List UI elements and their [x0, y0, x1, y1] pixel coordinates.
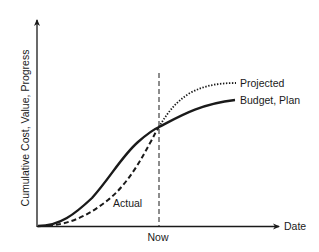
- now-label: Now: [147, 231, 168, 243]
- actual-curve: [40, 127, 159, 226]
- s-curve-chart: Projected Budget, Plan Actual Now Date C…: [0, 0, 319, 252]
- chart-svg: Projected Budget, Plan Actual Now Date C…: [0, 0, 319, 252]
- projected-label: Projected: [240, 77, 285, 89]
- budget-plan-label: Budget, Plan: [240, 94, 300, 106]
- actual-label: Actual: [113, 197, 142, 209]
- x-axis-label: Date: [284, 220, 306, 232]
- y-axis-label: Cumulative Cost, Value, Progress: [19, 50, 31, 207]
